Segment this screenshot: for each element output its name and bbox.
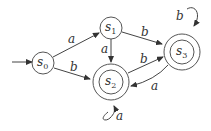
edge-s0-s1: a [53,32,99,57]
state-s2-accepting: s2 [93,64,129,100]
state-s0: s0 [32,52,54,74]
svg-text:b: b [140,52,148,66]
svg-text:s0: s0 [37,55,48,71]
svg-text:a: a [101,42,108,56]
svg-text:a: a [116,109,123,123]
svg-text:s1: s1 [105,20,116,36]
svg-text:b: b [141,25,149,39]
edge-s1-s2: a [101,39,111,62]
svg-text:b: b [176,9,184,23]
edge-s0-s2: b [54,60,90,79]
state-s3-accepting: s3 [164,34,200,70]
edge-s3-loop: b [176,8,198,26]
fsa-diagram: s0 s1 s2 s3 a b a b b a a [0,0,211,131]
edge-s1-s3: b [122,25,162,44]
svg-text:s2: s2 [105,74,116,90]
edge-s2-s3: b [128,52,163,73]
state-s1: s1 [100,17,122,39]
edge-s2-loop: a [103,106,123,123]
svg-text:b: b [70,60,78,74]
svg-text:a: a [68,32,75,46]
svg-text:s3: s3 [176,44,187,60]
svg-text:a: a [151,79,158,93]
